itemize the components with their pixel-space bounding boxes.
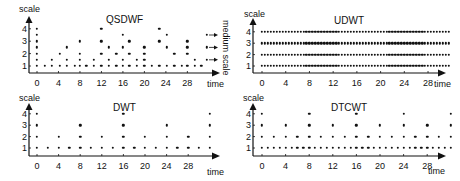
- panel-dtcwt: scale DTCWT time 04812162024281234: [0, 0, 460, 181]
- wavelet-sampling-figure: scale QSDWF time medium scale 0481216202…: [0, 0, 460, 181]
- x-tick-label: 0: [259, 161, 264, 171]
- dtcwt-axes: [0, 0, 460, 181]
- x-tick-label: 24: [399, 161, 409, 171]
- x-tick-label: 12: [328, 161, 338, 171]
- y-tick-label: 3: [241, 120, 251, 130]
- y-tick-label: 4: [241, 109, 251, 119]
- y-axis-label: scale: [243, 93, 264, 103]
- x-tick-label: 8: [307, 161, 312, 171]
- x-tick-label: 28: [422, 161, 432, 171]
- x-tick-label: 16: [351, 161, 361, 171]
- y-tick-label: 2: [241, 132, 251, 142]
- panel-title: DTCWT: [331, 102, 367, 113]
- y-tick-label: 1: [241, 143, 251, 153]
- x-tick-label: 20: [375, 161, 385, 171]
- x-tick-label: 4: [283, 161, 288, 171]
